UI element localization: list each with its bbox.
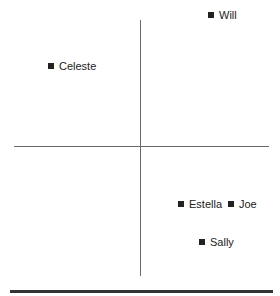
point-label: Will	[219, 9, 237, 21]
point-estella: Estella	[178, 198, 222, 210]
point-will: Will	[208, 9, 237, 21]
point-label: Joe	[239, 198, 257, 210]
point-label: Sally	[210, 236, 234, 248]
square-marker-icon	[48, 63, 54, 69]
square-marker-icon	[208, 12, 214, 18]
point-label: Celeste	[59, 60, 96, 72]
square-marker-icon	[178, 201, 184, 207]
horizontal-axis	[14, 146, 269, 147]
point-label: Estella	[189, 198, 222, 210]
point-sally: Sally	[199, 236, 234, 248]
point-celeste: Celeste	[48, 60, 96, 72]
point-joe: Joe	[228, 198, 257, 210]
bottom-divider	[10, 290, 273, 293]
square-marker-icon	[228, 201, 234, 207]
square-marker-icon	[199, 239, 205, 245]
vertical-axis	[140, 20, 141, 276]
